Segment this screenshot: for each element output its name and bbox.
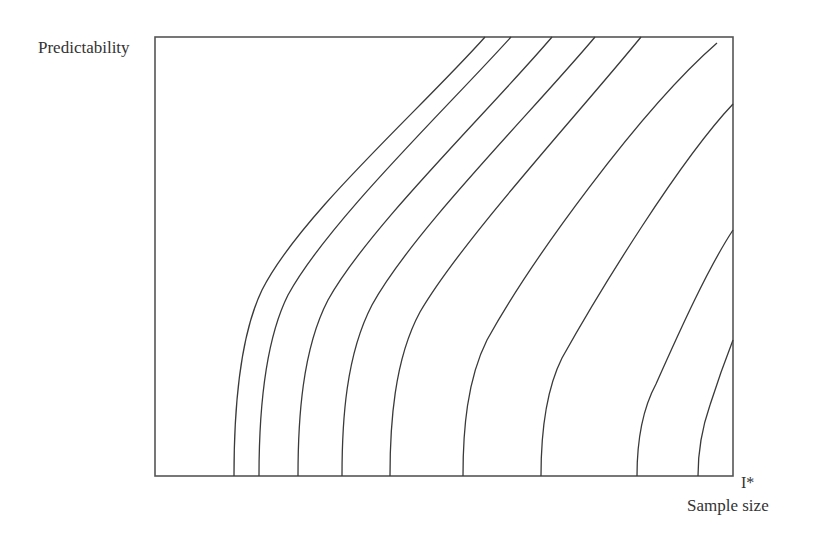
- curve-7: [541, 104, 733, 476]
- curve-3: [298, 37, 552, 476]
- curve-9: [698, 340, 733, 476]
- x-axis-marker: I*: [741, 474, 754, 492]
- plot-frame: [155, 37, 733, 476]
- x-axis-label: Sample size: [687, 496, 769, 516]
- y-axis-label: Predictability: [38, 38, 130, 58]
- curve-2: [259, 37, 511, 476]
- curve-8: [637, 230, 733, 476]
- chart-canvas: [0, 0, 826, 535]
- curve-4: [342, 37, 595, 476]
- curve-5: [390, 37, 641, 476]
- curve-1: [234, 37, 485, 476]
- curve-6: [463, 43, 717, 476]
- curve-group: [234, 37, 733, 476]
